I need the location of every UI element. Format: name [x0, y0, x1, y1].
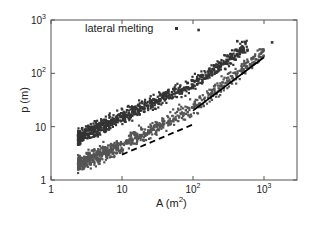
data-point — [107, 123, 109, 125]
data-point — [139, 110, 141, 112]
data-point — [184, 119, 186, 121]
data-point — [206, 103, 208, 105]
data-point — [187, 114, 189, 116]
data-point — [194, 73, 196, 75]
data-point — [231, 53, 233, 55]
data-point — [157, 124, 159, 126]
data-point — [157, 106, 159, 108]
data-point — [226, 55, 228, 57]
data-point — [131, 120, 133, 122]
data-point — [140, 139, 142, 141]
data-point — [200, 106, 202, 108]
data-point — [157, 128, 159, 130]
data-point — [199, 82, 201, 84]
data-point — [165, 102, 167, 104]
data-point — [186, 82, 188, 84]
data-point — [259, 53, 261, 55]
data-point — [99, 134, 101, 136]
data-point — [165, 91, 167, 93]
data-point — [139, 102, 141, 104]
data-point — [172, 108, 174, 110]
data-point — [182, 107, 184, 109]
data-point — [130, 133, 132, 135]
data-point — [198, 96, 200, 98]
data-point — [137, 110, 139, 112]
data-point — [140, 107, 142, 109]
data-point — [194, 88, 196, 90]
data-point — [181, 111, 183, 113]
data-point — [92, 149, 94, 151]
data-point — [208, 71, 210, 73]
data-point — [97, 129, 99, 131]
data-point — [102, 147, 104, 149]
data-point — [197, 29, 200, 32]
data-point — [148, 138, 150, 140]
data-point — [164, 100, 166, 102]
data-point — [190, 114, 192, 116]
data-point — [249, 64, 251, 66]
data-point — [124, 112, 126, 114]
data-point — [173, 120, 175, 122]
data-point — [173, 118, 175, 120]
data-point — [223, 89, 225, 91]
data-point — [88, 126, 90, 128]
data-point — [111, 153, 113, 155]
data-point — [244, 41, 246, 43]
data-point — [79, 143, 81, 145]
axis-ticks: 110102103110102103 — [31, 13, 297, 195]
data-point — [130, 109, 132, 111]
data-point — [169, 111, 171, 113]
data-point — [241, 69, 243, 71]
data-point — [234, 55, 236, 57]
data-point — [229, 71, 231, 73]
data-point — [237, 70, 239, 72]
data-point — [124, 142, 126, 144]
data-point — [231, 75, 233, 77]
data-point — [120, 142, 122, 144]
data-point — [176, 96, 178, 98]
data-point — [226, 87, 228, 89]
data-point — [215, 71, 217, 73]
data-point — [217, 65, 219, 67]
data-point — [210, 64, 212, 66]
data-point — [126, 109, 128, 111]
data-point — [131, 142, 133, 144]
data-point — [218, 69, 220, 71]
data-point — [157, 96, 159, 98]
data-point — [123, 144, 125, 146]
data-point — [151, 101, 153, 103]
data-point — [120, 112, 122, 114]
data-point — [96, 120, 98, 122]
data-point — [188, 88, 190, 90]
data-point — [93, 164, 95, 166]
data-point — [174, 112, 176, 114]
data-point — [185, 109, 187, 111]
data-point — [128, 147, 130, 149]
data-point — [149, 97, 151, 99]
data-point — [203, 77, 205, 79]
data-point — [172, 96, 174, 98]
data-point — [243, 51, 245, 53]
data-point — [86, 129, 88, 131]
data-point — [168, 120, 170, 122]
data-point — [246, 50, 248, 52]
data-point — [92, 122, 94, 124]
data-point — [163, 123, 165, 125]
data-point — [81, 139, 83, 141]
data-point — [184, 95, 186, 97]
data-point — [126, 142, 128, 144]
data-point — [209, 76, 211, 78]
data-point — [129, 139, 131, 141]
data-point — [82, 166, 84, 168]
data-point — [161, 124, 163, 126]
data-point — [77, 142, 79, 144]
data-point — [191, 107, 193, 109]
data-point — [104, 149, 106, 151]
chart-canvas: 110102103110102103 lateral melting A (m2… — [0, 0, 313, 229]
data-point — [78, 162, 80, 164]
data-point — [183, 89, 185, 91]
data-point — [98, 125, 100, 127]
data-point — [204, 72, 206, 74]
data-point — [108, 149, 110, 151]
data-point — [171, 115, 173, 117]
